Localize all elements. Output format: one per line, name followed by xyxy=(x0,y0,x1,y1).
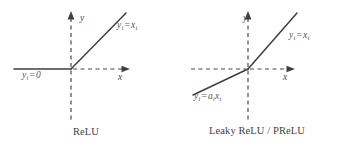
leaky-equation-identity: yi=xi xyxy=(289,30,310,40)
relu-eq-zero-value: 0 xyxy=(36,70,41,80)
leaky-eq-identity-op: = xyxy=(295,30,303,40)
relu-eq-identity-rhs-sub: i xyxy=(135,24,137,31)
activation-functions-figure: yi=0 yi=xi y x ReLU yi=xi yi=aixi y x Le… xyxy=(0,0,343,152)
relu-y-axis-label: y xyxy=(80,13,84,23)
relu-eq-identity-op: = xyxy=(123,20,131,30)
leaky-caption: Leaky ReLU / PReLU xyxy=(171,125,343,136)
relu-caption: ReLU xyxy=(0,126,172,137)
relu-equation-zero: yi=0 xyxy=(22,70,41,80)
relu-y-axis-arrowhead xyxy=(68,11,75,20)
leaky-eq-leak-op: = xyxy=(200,91,208,101)
leaky-x-axis-arrowhead xyxy=(287,66,296,72)
leaky-eq-leak-coef-sub: i xyxy=(213,95,215,102)
relu-equation-identity: yi=xi xyxy=(117,20,138,30)
relu-eq-zero-op: = xyxy=(28,70,36,80)
leaky-x-axis-label: x xyxy=(283,72,287,82)
relu-panel: yi=0 yi=xi y x ReLU xyxy=(0,0,172,152)
leaky-eq-leak-rhs-sub: i xyxy=(219,95,221,102)
relu-x-axis-label: x xyxy=(118,72,122,82)
leaky-equation-leak: yi=aixi xyxy=(194,91,222,101)
leaky-y-axis-label: y xyxy=(243,13,247,23)
relu-x-axis-arrowhead xyxy=(122,66,131,72)
leaky-curve-identity-branch xyxy=(248,13,297,69)
leaky-eq-identity-rhs-sub: i xyxy=(307,34,309,41)
leaky-relu-panel: yi=xi yi=aixi y x Leaky ReLU / PReLU xyxy=(171,0,343,152)
